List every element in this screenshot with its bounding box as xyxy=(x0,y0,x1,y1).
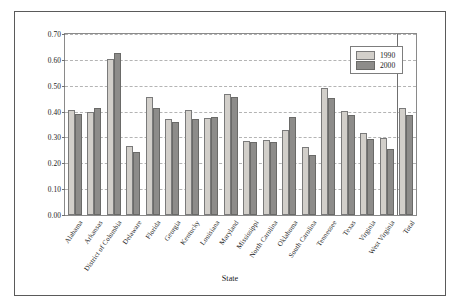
bar-2000 xyxy=(133,152,140,215)
bar-group xyxy=(260,34,280,215)
bar-1990 xyxy=(126,146,133,215)
x-axis-tick-label: Virginia xyxy=(357,219,377,243)
legend-swatch-2000 xyxy=(356,61,375,70)
bar-2000 xyxy=(153,108,160,215)
bar-group xyxy=(85,34,105,215)
bar-group xyxy=(319,34,339,215)
bar-1990 xyxy=(165,119,172,215)
bar-group xyxy=(182,34,202,215)
bar-2000 xyxy=(328,98,335,215)
y-axis-tick-label: 0.40 xyxy=(48,107,61,116)
bar-2000 xyxy=(367,139,374,215)
y-axis-tick-label: 0.50 xyxy=(48,81,61,90)
bar-2000 xyxy=(270,142,277,215)
bar-2000 xyxy=(250,142,257,215)
x-axis-tick-label: Florida xyxy=(144,219,163,241)
y-axis-tick-label: 0.70 xyxy=(48,30,61,39)
legend-item-2000: 2000 xyxy=(356,60,395,70)
y-axis-tick-label: 0.10 xyxy=(48,185,61,194)
bar-group xyxy=(143,34,163,215)
legend-item-1990: 1990 xyxy=(356,50,395,60)
bar-2000 xyxy=(192,119,199,215)
bar-1990 xyxy=(380,138,387,215)
x-axis-tick-label: Alabama xyxy=(63,219,84,245)
plot-area: 0.000.100.200.300.400.500.600.70 1990 20… xyxy=(64,33,417,216)
bar-group xyxy=(241,34,261,215)
bar-2000 xyxy=(406,115,413,215)
x-axis-title: State xyxy=(15,274,445,283)
bar-2000 xyxy=(94,108,101,215)
x-axis-tick-label: Texas xyxy=(341,219,357,237)
bar-2000 xyxy=(348,115,355,215)
bar-2000 xyxy=(309,155,316,215)
bar-group xyxy=(202,34,222,215)
bar-1990 xyxy=(146,97,153,215)
y-axis-tick-mark xyxy=(62,215,65,216)
bar-1990 xyxy=(282,130,289,215)
bar-2000 xyxy=(211,117,218,215)
bar-1990 xyxy=(360,133,367,215)
bar-1990 xyxy=(224,94,231,215)
legend-label-2000: 2000 xyxy=(380,61,395,70)
y-axis-tick-label: 0.00 xyxy=(48,211,61,220)
y-axis-tick-label: 0.20 xyxy=(48,159,61,168)
bar-1990 xyxy=(68,110,75,215)
legend: 1990 2000 xyxy=(350,46,403,74)
x-axis-tick-label: Georgia xyxy=(162,219,182,243)
y-axis-tick-label: 0.60 xyxy=(48,55,61,64)
bar-1990 xyxy=(204,118,211,215)
bar-group xyxy=(65,34,85,215)
bar-1990 xyxy=(107,59,114,215)
bar-2000 xyxy=(75,114,82,215)
bar-group xyxy=(124,34,144,215)
bar-1990 xyxy=(341,111,348,215)
x-axis-tick-label: Delaware xyxy=(121,219,143,246)
y-axis-tick-label: 0.30 xyxy=(48,133,61,142)
bar-2000 xyxy=(387,149,394,215)
bar-1990 xyxy=(243,141,250,215)
bar-1990 xyxy=(321,88,328,215)
bar-1990 xyxy=(399,108,406,215)
bar-1990 xyxy=(263,140,270,215)
bar-1990 xyxy=(185,110,192,215)
figure-frame: Segregation Level (H) 0.000.100.200.300.… xyxy=(14,11,446,296)
bar-group xyxy=(280,34,300,215)
bar-group xyxy=(221,34,241,215)
legend-swatch-1990 xyxy=(356,51,375,60)
bar-group xyxy=(104,34,124,215)
bar-2000 xyxy=(289,117,296,215)
bar-2000 xyxy=(114,53,121,215)
bar-1990 xyxy=(302,147,309,215)
bar-2000 xyxy=(231,97,238,215)
bar-group xyxy=(299,34,319,215)
legend-label-1990: 1990 xyxy=(380,51,395,60)
bar-2000 xyxy=(172,122,179,215)
bar-group xyxy=(163,34,183,215)
x-axis-tick-label: Total xyxy=(401,219,416,236)
bar-1990 xyxy=(87,112,94,215)
